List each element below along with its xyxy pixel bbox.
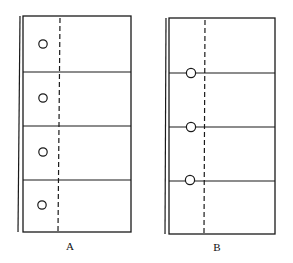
figure-a-label: A — [66, 240, 74, 252]
figure-b-circle-2 — [186, 122, 195, 131]
figure-b-circle-3 — [185, 175, 194, 184]
figure-a — [18, 16, 131, 232]
figure-a-circle-1 — [39, 40, 47, 48]
figure-a-circle-3 — [39, 148, 47, 156]
figure-b-circle-1 — [186, 68, 195, 77]
diagram-canvas — [0, 0, 293, 263]
figure-a-dashed-line — [58, 18, 60, 231]
figure-a-circle-4 — [38, 201, 46, 209]
figure-a-circle-2 — [39, 94, 47, 102]
figure-b-dashed-line — [204, 20, 205, 233]
figure-b-frame — [169, 18, 275, 234]
figure-b — [165, 18, 275, 234]
figure-a-outer-spine — [18, 16, 20, 232]
figure-b-label: B — [213, 241, 220, 253]
figure-b-outer-spine — [165, 18, 166, 234]
figure-a-frame — [23, 16, 131, 232]
